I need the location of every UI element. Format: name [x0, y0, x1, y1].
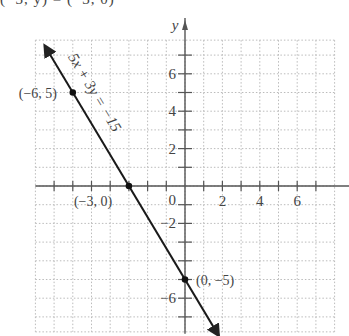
- equation-line: 5x + 3y = −15: [45, 46, 219, 336]
- point-label: (0, −5): [196, 273, 235, 289]
- y-tick-label: 6: [169, 66, 177, 82]
- plotted-points: (−6, 5)(−3, 0)(0, −5): [19, 86, 235, 289]
- y-axis-label: y: [170, 17, 179, 33]
- x-tick-label: 4: [256, 193, 264, 209]
- y-tick-label: 4: [169, 103, 177, 119]
- coordinate-plane: 5x + 3y = −15 (−6, 5)(−3, 0)(0, −5) 2466…: [0, 0, 349, 336]
- origin-label: 0: [169, 192, 177, 208]
- point-label: (−3, 0): [74, 194, 113, 210]
- y-tick-label: −2: [160, 215, 176, 231]
- y-axis-arrow-icon: [182, 20, 188, 30]
- y-tick-label: −6: [160, 290, 176, 306]
- x-tick-label: 6: [293, 193, 301, 209]
- point-label: (−6, 5): [19, 86, 58, 102]
- y-tick-label: 2: [169, 141, 177, 157]
- point-marker: [182, 276, 189, 283]
- axis-labels: 246642−2−60y: [160, 17, 301, 306]
- line-5x-3y-neg15: [45, 46, 219, 336]
- point-marker: [126, 183, 133, 190]
- point-marker: [70, 89, 77, 96]
- x-tick-label: 2: [219, 193, 227, 209]
